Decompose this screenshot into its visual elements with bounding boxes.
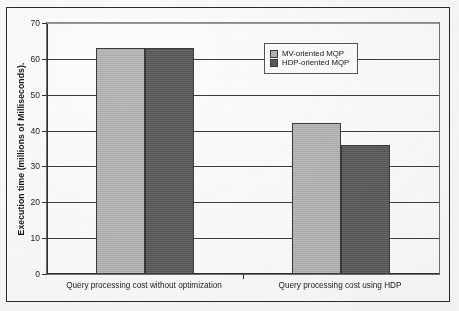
legend-swatch-mv-oriented-mqp [270,50,278,58]
legend-label-hdp-oriented-mqp: HDP-oriented MQP [282,59,349,67]
y-axis-title-text: Execution time (millions of Milliseconds… [16,62,26,235]
y-tick-label: 50 [31,90,40,99]
x-axis-category-label: Query processing cost using HDP [279,281,402,290]
bar-hdp-oriented-mqp [145,48,194,274]
y-tick-label: 30 [31,162,40,171]
y-tick-mark [42,95,47,96]
legend-label-mv-oriented-mqp: MV-oriented MQP [282,50,344,58]
bar-chart-figure: Execution time (millions of Milliseconds… [0,0,459,311]
y-tick-mark [42,131,47,132]
y-axis-title: Execution time (millions of Milliseconds… [14,22,28,275]
y-tick-mark [42,166,47,167]
y-tick-mark [42,238,47,239]
y-tick-mark [42,202,47,203]
bar-hdp-oriented-mqp [341,145,390,274]
y-tick-label: 0 [35,270,40,279]
y-tick-label: 20 [31,198,40,207]
bar-mv-oriented-mqp [96,48,145,274]
y-tick-label: 10 [31,234,40,243]
y-tick-label: 40 [31,126,40,135]
y-tick-label: 70 [31,19,40,28]
y-tick-mark [42,274,47,275]
plot-area: 010203040506070 [46,22,440,275]
y-axis-line [47,23,48,274]
legend-item: MV-oriented MQP [270,50,349,58]
bar-mv-oriented-mqp [292,123,341,274]
chart-legend: MV-oriented MQP HDP-oriented MQP [264,43,358,74]
x-tick-mark [243,274,244,279]
y-tick-label: 60 [31,55,40,64]
gridline [47,23,439,24]
legend-swatch-hdp-oriented-mqp [270,59,278,67]
x-axis-category-label: Query processing cost without optimizati… [66,281,222,290]
y-tick-mark [42,59,47,60]
y-tick-mark [42,23,47,24]
legend-item: HDP-oriented MQP [270,59,349,67]
